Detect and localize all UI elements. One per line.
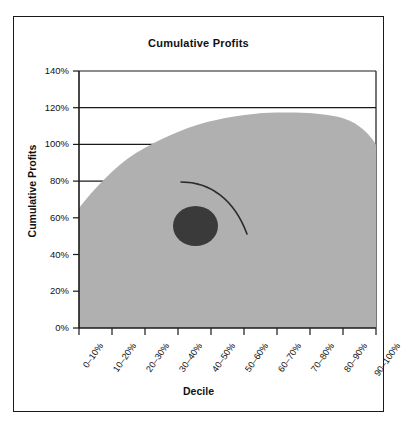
y-tick-label-60: 60% [14, 212, 69, 223]
y-tick-label-40: 40% [14, 249, 69, 260]
y-tick-label-80: 80% [14, 175, 69, 186]
y-tick-label-0: 0% [14, 322, 69, 333]
highlight-ellipse-annotation [173, 206, 218, 246]
y-tick-label-140: 140% [14, 65, 69, 76]
x-axis-title: Decile [14, 385, 383, 397]
y-tick-label-20: 20% [14, 285, 69, 296]
chart-frame: Cumulative Profits Cumulative Profits [13, 16, 384, 412]
y-tick-label-120: 120% [14, 102, 69, 113]
y-tick-label-100: 100% [14, 138, 69, 149]
